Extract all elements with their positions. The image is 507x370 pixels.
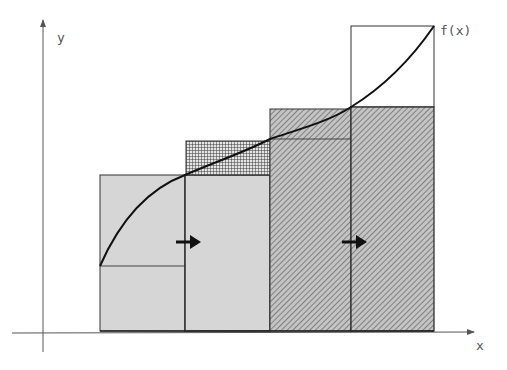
y-axis-label: y [57, 30, 65, 45]
x-axis [12, 332, 474, 333]
riemann-diagram: y f(x) x [0, 0, 507, 370]
rect-4 [351, 107, 434, 331]
rect-3 [270, 109, 351, 331]
rect-4-upper-outline [351, 26, 434, 107]
function-label: f(x) [440, 23, 471, 38]
rect-2 [185, 175, 270, 331]
rect-1 [100, 175, 185, 331]
x-axis-label: x [476, 338, 484, 353]
